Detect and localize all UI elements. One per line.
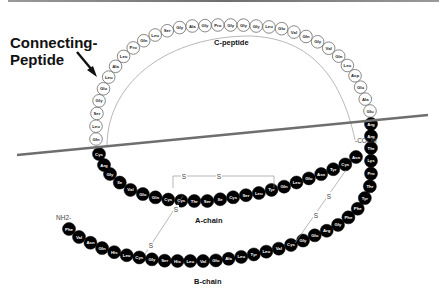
residue-ala: Ala [186, 20, 199, 33]
residue-ala: Ala [222, 252, 235, 265]
residue-gln: Gln [149, 191, 162, 204]
residue-gln: Gln [137, 34, 150, 47]
residue-leu: Leu [120, 249, 133, 262]
residue-glu: Glu [364, 105, 377, 118]
svg-text:Leu: Leu [92, 124, 100, 129]
residue-gln: Gln [278, 180, 291, 193]
svg-text:Thr: Thr [366, 184, 373, 189]
svg-text:Val: Val [200, 259, 206, 264]
residue-thr: Thr [188, 195, 201, 208]
residue-arg: Arg [320, 224, 333, 237]
residue-lys: Lys [365, 154, 378, 167]
residue-his: His [108, 246, 121, 259]
svg-text:Tyr: Tyr [251, 252, 258, 257]
residue-ser: Ser [91, 107, 104, 120]
residue-gly: Gly [199, 19, 212, 32]
sulfur-label: S [217, 173, 222, 180]
residue-ala: Ala [359, 93, 372, 106]
residue-cys: Cys [227, 191, 240, 204]
residue-glu: Glu [209, 254, 222, 267]
svg-text:Gly: Gly [227, 23, 235, 28]
residue-gln: Gln [90, 133, 103, 146]
nh2-terminus-label: NH2- [56, 214, 71, 221]
svg-text:Tyr: Tyr [268, 187, 275, 192]
residue-asn: Asn [350, 151, 363, 164]
residue-gly: Gly [173, 21, 186, 34]
svg-text:Gln: Gln [92, 137, 100, 142]
residue-cys: Cys [162, 193, 175, 206]
svg-text:Arg: Arg [367, 122, 375, 127]
svg-text:Leu: Leu [120, 54, 128, 59]
svg-text:Leu: Leu [105, 75, 113, 80]
svg-text:Gln: Gln [152, 195, 160, 200]
a-chain-intrachain-disulfide: S S [173, 172, 274, 188]
svg-text:Asn: Asn [86, 240, 94, 245]
residue-glu: Glu [97, 82, 110, 95]
svg-text:Asp: Asp [351, 73, 359, 78]
residue-cys: Cys [284, 238, 297, 251]
residue-val: Val [288, 26, 301, 39]
dibasic-a-side: CysArg [93, 148, 111, 172]
residue-cys: Cys [133, 251, 146, 264]
residue-ser: Ser [158, 254, 171, 267]
svg-text:Glu: Glu [305, 176, 313, 181]
residue-pro: Pro [365, 167, 378, 180]
svg-text:Glu: Glu [311, 233, 319, 238]
residue-glu: Glu [302, 172, 315, 185]
residue-leu: Leu [235, 250, 248, 263]
residue-gln: Gln [96, 242, 109, 255]
residue-leu: Leu [102, 71, 115, 84]
svg-text:Glu: Glu [366, 109, 374, 114]
residue-asp: Asp [349, 69, 362, 82]
svg-text:Glu: Glu [212, 258, 220, 263]
svg-text:Glu: Glu [100, 86, 108, 91]
svg-text:Arg: Arg [100, 163, 108, 168]
svg-text:Gln: Gln [335, 54, 343, 59]
svg-text:Gly: Gly [176, 25, 184, 30]
sulfur-label: S [149, 242, 154, 249]
svg-text:Gly: Gly [240, 23, 248, 28]
residue-gly: Gly [224, 19, 237, 32]
svg-text:Ile: Ile [218, 197, 223, 202]
svg-text:Val: Val [291, 30, 297, 35]
arrow-icon [77, 52, 97, 77]
residue-leu: Leu [260, 245, 273, 258]
residue-tyr: Tyr [327, 163, 340, 176]
svg-text:Ala: Ala [362, 97, 369, 102]
c-peptide-arc [107, 36, 355, 145]
svg-text:Val: Val [326, 46, 332, 51]
svg-text:His: His [111, 250, 118, 255]
residue-leu: Leu [90, 120, 103, 133]
svg-text:Glu: Glu [139, 192, 147, 197]
svg-text:His: His [174, 259, 181, 264]
svg-text:Ala: Ala [225, 256, 232, 261]
residue-glu: Glu [354, 81, 367, 94]
residue-asn: Asn [315, 168, 328, 181]
svg-text:Cys: Cys [164, 197, 172, 202]
svg-text:Ala: Ala [112, 64, 119, 69]
svg-text:Leu: Leu [265, 24, 273, 29]
svg-text:Ser: Ser [204, 199, 211, 204]
svg-text:Leu: Leu [262, 249, 270, 254]
residue-ser: Ser [161, 24, 174, 37]
svg-text:Pro: Pro [130, 45, 138, 50]
residue-tyr: Tyr [358, 192, 371, 205]
svg-text:Gly: Gly [202, 23, 210, 28]
svg-text:Cys: Cys [287, 242, 295, 247]
svg-text:Val: Val [127, 187, 133, 192]
svg-text:Gly: Gly [253, 24, 261, 29]
svg-text:Phe: Phe [65, 227, 73, 232]
residue-leu: Leu [252, 187, 265, 200]
a-chain-label: A-chain [195, 216, 223, 225]
residue-gln: Gln [300, 30, 313, 43]
svg-text:Gln: Gln [140, 38, 148, 43]
svg-text:Ser: Ser [164, 28, 171, 33]
svg-text:Ile: Ile [117, 180, 122, 185]
svg-text:Gln: Gln [281, 184, 289, 189]
residue-tyr: Tyr [265, 183, 278, 196]
svg-text:Leu: Leu [344, 63, 352, 68]
residue-gly: Gly [93, 95, 106, 108]
svg-text:Lys: Lys [367, 158, 375, 163]
cooh-terminus-label: -COOH [355, 137, 377, 144]
sulfur-label: S [182, 173, 187, 180]
